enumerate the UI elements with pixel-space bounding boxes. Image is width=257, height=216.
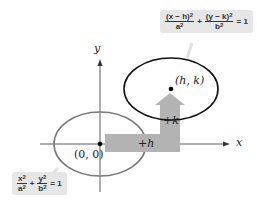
callout-pointer-top (187, 43, 192, 58)
x-axis-label: x (236, 136, 242, 149)
origin-label: (0, 0) (74, 148, 104, 161)
center-label: (h, k) (175, 74, 204, 87)
origin-point (98, 142, 103, 147)
standard-equation-callout: x2a2 + y2b2 = 1 (12, 172, 67, 195)
translated-equation-callout: (x − h)2a2 + (y − k)2b2 = 1 (160, 10, 253, 33)
eq2-num: (y − k) (206, 12, 229, 21)
eq1-rhs: = 1 (236, 17, 247, 26)
eq1-num: (x − h) (166, 12, 190, 21)
eq1-plus: + (197, 17, 202, 26)
y-axis-label: y (94, 42, 100, 55)
center-point (169, 87, 174, 92)
shift-k-label: +k (163, 114, 179, 127)
std-rhs: = 1 (50, 179, 61, 188)
std-plus: + (30, 179, 35, 188)
x-axis-arrow-icon (223, 142, 230, 147)
shift-h-label: +h (138, 137, 154, 150)
y-axis-arrow-icon (98, 59, 103, 66)
ellipse-translation-diagram: x y (0, 0) (h, k) +h +k (x − h)2a2 + (y … (0, 0, 257, 216)
